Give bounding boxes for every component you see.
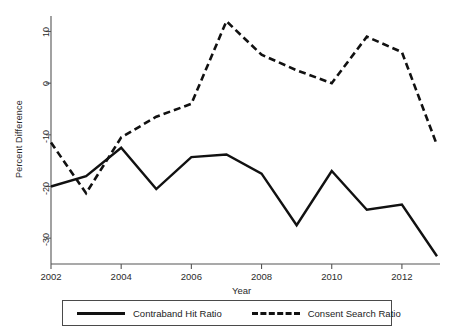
x-tick-label: 2006 — [175, 271, 207, 282]
y-axis-label: Percent Difference — [14, 100, 24, 178]
y-tick-label: -20 — [41, 182, 51, 195]
legend-label: Consent Search Ratio — [308, 308, 401, 319]
y-tick-label: -10 — [41, 130, 51, 143]
legend-item-1: Contraband Hit Ratio — [77, 308, 222, 319]
x-tick-label: 2008 — [246, 271, 278, 282]
chart-legend: Contraband Hit RatioConsent Search Ratio — [62, 300, 392, 326]
x-tick-label: 2004 — [105, 271, 137, 282]
y-tick-label: -30 — [41, 233, 51, 246]
legend-dashed-line-icon — [252, 312, 300, 315]
y-tick-label: 0 — [41, 81, 51, 86]
y-tick-label: 10 — [41, 27, 51, 37]
x-tick-label: 2002 — [35, 271, 67, 282]
legend-item-2: Consent Search Ratio — [252, 308, 401, 319]
chart-canvas — [0, 0, 455, 334]
x-tick-label: 2012 — [386, 271, 418, 282]
x-axis-label: Year — [232, 285, 251, 296]
series-line-1 — [51, 148, 437, 257]
series-line-2 — [51, 21, 437, 193]
x-tick-label: 2010 — [316, 271, 348, 282]
legend-label: Contraband Hit Ratio — [133, 308, 222, 319]
x-axis-ticks — [51, 264, 402, 269]
data-series-group — [51, 21, 437, 256]
legend-solid-line-icon — [77, 312, 125, 315]
axes — [46, 16, 440, 269]
